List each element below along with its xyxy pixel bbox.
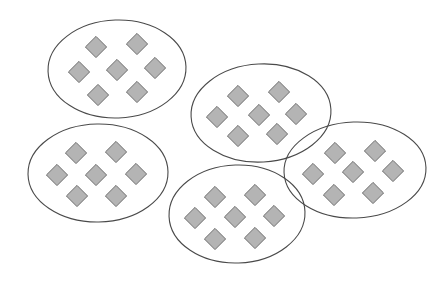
diamond-item[interactable] bbox=[362, 182, 383, 203]
diamond-item[interactable] bbox=[125, 163, 146, 184]
diamond-item[interactable] bbox=[105, 185, 126, 206]
diamond-item[interactable] bbox=[266, 123, 287, 144]
diamond-item[interactable] bbox=[85, 164, 106, 185]
group-3[interactable] bbox=[27, 123, 169, 223]
diamond-item[interactable] bbox=[244, 227, 265, 248]
diamond-item[interactable] bbox=[285, 103, 306, 124]
diamond-item[interactable] bbox=[126, 81, 147, 102]
group-1[interactable] bbox=[46, 18, 187, 121]
diamond-item[interactable] bbox=[204, 186, 225, 207]
group-4[interactable] bbox=[167, 163, 306, 266]
diamond-item[interactable] bbox=[382, 160, 403, 181]
diamond-item[interactable] bbox=[46, 164, 67, 185]
diamond-item[interactable] bbox=[227, 85, 248, 106]
diamond-item[interactable] bbox=[204, 228, 225, 249]
diamond-item[interactable] bbox=[342, 161, 363, 182]
diamond-item[interactable] bbox=[323, 184, 344, 205]
diamond-item[interactable] bbox=[184, 207, 205, 228]
diamond-item[interactable] bbox=[68, 61, 89, 82]
group-items bbox=[184, 184, 284, 249]
group-items bbox=[302, 140, 403, 205]
diamond-item[interactable] bbox=[144, 57, 165, 78]
diamond-item[interactable] bbox=[106, 59, 127, 80]
diamond-item[interactable] bbox=[87, 84, 108, 105]
diamond-item[interactable] bbox=[244, 184, 265, 205]
diamond-item[interactable] bbox=[126, 33, 147, 54]
diamond-item[interactable] bbox=[85, 36, 106, 57]
diagram-figure bbox=[0, 0, 437, 281]
diamond-item[interactable] bbox=[227, 125, 248, 146]
group-items bbox=[68, 33, 165, 105]
diagram-canvas bbox=[0, 0, 437, 281]
group-items bbox=[206, 81, 306, 146]
diamond-item[interactable] bbox=[302, 163, 323, 184]
group-items bbox=[46, 141, 146, 206]
diamond-item[interactable] bbox=[65, 142, 86, 163]
diamond-item[interactable] bbox=[364, 140, 385, 161]
diamond-item[interactable] bbox=[324, 142, 345, 163]
diamond-item[interactable] bbox=[248, 104, 269, 125]
group-2[interactable] bbox=[189, 60, 334, 165]
diamond-item[interactable] bbox=[263, 205, 284, 226]
diamond-item[interactable] bbox=[66, 185, 87, 206]
diamond-item[interactable] bbox=[268, 81, 289, 102]
diamond-item[interactable] bbox=[105, 141, 126, 162]
diamond-item[interactable] bbox=[206, 106, 227, 127]
groups-layer bbox=[27, 18, 427, 266]
diamond-item[interactable] bbox=[224, 206, 245, 227]
